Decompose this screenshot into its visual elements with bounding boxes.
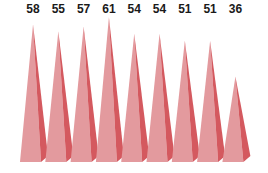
pyramid-bar <box>96 17 124 162</box>
pyramid-bar <box>197 41 225 162</box>
pyramid-bar <box>121 34 149 162</box>
pyramid-bar <box>222 76 250 162</box>
pyramid-bar <box>20 24 48 162</box>
pyramid-chart <box>0 0 268 173</box>
pyramid-bar <box>45 31 73 162</box>
pyramid-bar <box>172 41 200 162</box>
pyramid-bar <box>71 27 99 162</box>
pyramid-bar <box>147 34 175 162</box>
